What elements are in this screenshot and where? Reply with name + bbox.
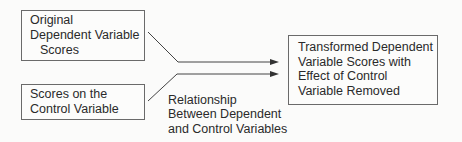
edge-label-line-2: Between Dependent <box>168 107 281 122</box>
transformed-line-2: Variable Scores with <box>298 55 411 70</box>
control-line-1: Scores on the <box>30 87 107 102</box>
diagram-canvas: Original Dependent Variable Scores Score… <box>0 0 462 142</box>
original-line-1: Original <box>30 13 73 28</box>
transformed-line-3: Effect of Control <box>298 69 387 84</box>
edge-label-line-1: Relationship <box>168 93 237 108</box>
control-line-2: Control Variable <box>30 102 119 117</box>
edge-label-line-3: and Control Variables <box>168 122 287 137</box>
original-line-3: Scores <box>40 43 79 58</box>
original-line-2: Dependent Variable <box>30 28 140 43</box>
transformed-line-4: Variable Removed <box>298 84 400 99</box>
transformed-line-1: Transformed Dependent <box>298 40 433 55</box>
